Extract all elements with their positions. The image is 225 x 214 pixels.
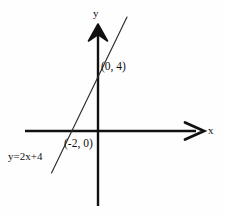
y-axis-label: y	[93, 8, 99, 19]
equation-label: y=2x+4	[8, 151, 42, 162]
x-axis-label: x	[208, 125, 214, 136]
x-intercept-label: (-2, 0)	[64, 138, 93, 150]
coordinate-plane-svg	[0, 0, 225, 214]
y-intercept-label: (0, 4)	[101, 61, 126, 73]
graph-figure: y x (0, 4) (-2, 0) y=2x+4	[0, 0, 225, 214]
